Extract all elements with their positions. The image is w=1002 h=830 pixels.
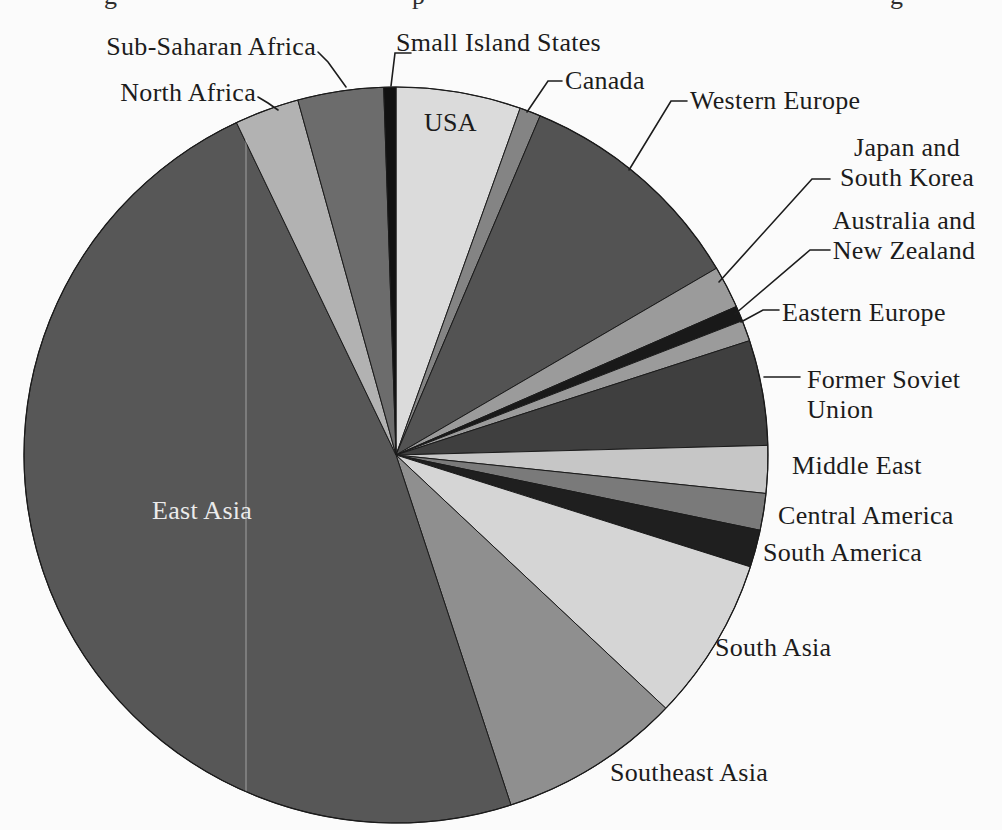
leader-line-canada — [527, 81, 562, 112]
pie-chart — [0, 0, 1002, 830]
leader-line-small-island-states — [391, 53, 411, 86]
leader-line-japan-and-south-korea — [719, 179, 830, 282]
leader-line-sub-saharan-africa — [318, 52, 346, 87]
leader-line-western-europe — [629, 101, 687, 170]
figure-page: gpg USACanadaWestern EuropeJapan andSout… — [0, 0, 1002, 830]
leader-line-north-africa — [258, 97, 278, 110]
leader-line-australia-and-new-zealand — [735, 250, 830, 314]
leader-line-eastern-europe — [741, 310, 779, 322]
